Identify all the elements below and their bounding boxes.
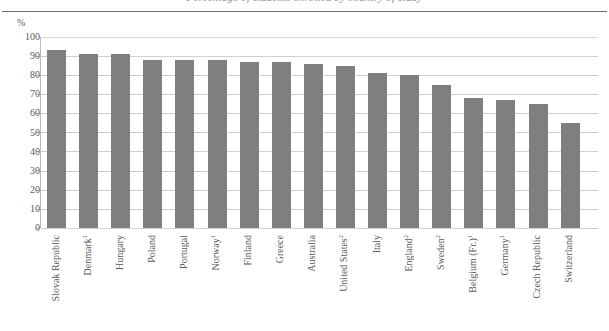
- bar-series: [41, 37, 598, 228]
- x-axis-label-text: Hungary: [115, 235, 125, 270]
- bar: [561, 123, 580, 228]
- y-tick-90: 90: [6, 51, 40, 61]
- x-axis-label-text: Sweden2: [436, 235, 446, 270]
- x-axis-label: Denmark1: [78, 231, 97, 331]
- y-tick-20: 20: [6, 185, 40, 195]
- x-axis-category-labels: Slovak RepublicDenmark1HungaryPolandPort…: [40, 231, 597, 331]
- y-tickmark-0: [36, 228, 40, 229]
- x-axis-label-text: Belgium (Fr.)1: [468, 235, 478, 293]
- x-axis-label: Greece: [271, 231, 290, 331]
- x-axis-label-text: Poland: [147, 235, 157, 263]
- bar: [47, 50, 66, 228]
- y-axis-tick-labels: 100 90 80 70 60 50 40 30 20 10 0: [0, 0, 40, 331]
- x-axis-label-text: Norway1: [211, 235, 221, 270]
- x-axis-label-footnote: 1: [80, 235, 87, 238]
- x-axis-label-footnote: 2: [337, 235, 344, 238]
- x-axis-label-text: Portugal: [179, 235, 189, 269]
- bar-chart-figure: Percentage of students enrolled by count…: [0, 0, 609, 331]
- x-axis-label-text: Greece: [275, 235, 285, 263]
- bar: [496, 100, 515, 228]
- bar: [143, 60, 162, 228]
- bar: [336, 66, 355, 228]
- y-tick-0: 0: [6, 223, 40, 233]
- x-axis-label: Australia: [303, 231, 322, 331]
- bar: [400, 75, 419, 228]
- x-axis-label: Italy: [367, 231, 386, 331]
- bar: [272, 62, 291, 228]
- x-axis-label-text: Germany1: [500, 235, 510, 275]
- y-tick-70: 70: [6, 89, 40, 99]
- x-axis-label: England2: [399, 231, 418, 331]
- header-rule: [2, 11, 607, 12]
- x-axis-label-text: Denmark1: [83, 235, 93, 275]
- x-axis-label-text: Finland: [243, 235, 253, 266]
- x-axis-label-text: England2: [404, 235, 414, 272]
- x-axis-label: Poland: [142, 231, 161, 331]
- x-axis-label-footnote: 2: [401, 235, 408, 238]
- x-axis-label-text: United States2: [339, 235, 349, 292]
- bar: [79, 54, 98, 228]
- x-axis-label: Sweden2: [431, 231, 450, 331]
- y-tick-60: 60: [6, 108, 40, 118]
- bar: [175, 60, 194, 228]
- x-axis-label: Belgium (Fr.)1: [463, 231, 482, 331]
- x-axis-label: Hungary: [110, 231, 129, 331]
- bar: [240, 62, 259, 228]
- x-axis-label: United States2: [335, 231, 354, 331]
- x-axis-label-footnote: 1: [209, 235, 216, 238]
- bar: [529, 104, 548, 228]
- y-tick-100: 100: [6, 32, 40, 42]
- plot-area: [40, 37, 597, 228]
- x-axis-label-footnote: 2: [433, 235, 440, 238]
- x-axis-label: Slovak Republic: [46, 231, 65, 331]
- bar: [368, 73, 387, 228]
- x-axis-label-text: Slovak Republic: [51, 235, 61, 301]
- y-tick-40: 40: [6, 147, 40, 157]
- x-axis-label: Finland: [239, 231, 258, 331]
- y-tick-80: 80: [6, 70, 40, 80]
- bar: [304, 64, 323, 228]
- x-axis-label-text: Italy: [372, 235, 382, 253]
- bar: [464, 98, 483, 228]
- cut-off-title-text: Percentage of students enrolled by count…: [0, 0, 609, 3]
- x-axis-label-text: Czech Republic: [532, 235, 542, 299]
- x-axis-label: Czech Republic: [528, 231, 547, 331]
- x-axis-label: Switzerland: [560, 231, 579, 331]
- x-axis-label-footnote: 1: [465, 235, 472, 238]
- y-tick-50: 50: [6, 128, 40, 138]
- bar: [432, 85, 451, 228]
- cut-off-title: Percentage of students enrolled by count…: [0, 0, 609, 5]
- y-tick-10: 10: [6, 204, 40, 214]
- gridline-0: [41, 228, 598, 229]
- y-tick-30: 30: [6, 166, 40, 176]
- bar: [111, 54, 130, 228]
- x-axis-label-text: Switzerland: [564, 235, 574, 283]
- x-axis-label: Norway1: [207, 231, 226, 331]
- x-axis-label: Portugal: [174, 231, 193, 331]
- x-axis-label-text: Australia: [307, 235, 317, 272]
- x-axis-label: Germany1: [495, 231, 514, 331]
- x-axis-label-footnote: 1: [498, 235, 505, 238]
- bar: [208, 60, 227, 228]
